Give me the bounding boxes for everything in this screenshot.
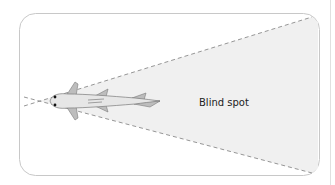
blind-spot-label: Blind spot — [199, 97, 249, 108]
blind-spot-diagram: Blind spot — [0, 0, 335, 185]
